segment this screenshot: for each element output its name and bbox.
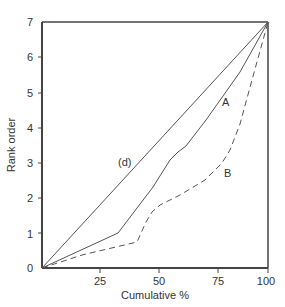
label-a: A	[222, 96, 230, 108]
y-axis-title: Rank order	[5, 117, 17, 172]
y-tick-labels: 7 6 5 4 3 2 1 0	[27, 16, 33, 274]
x-tick-25: 25	[94, 275, 106, 287]
label-d: (d)	[118, 156, 131, 168]
curves	[42, 22, 268, 268]
y-tick-7: 7	[27, 16, 33, 28]
x-tick-labels: 25 50 75 100	[94, 275, 275, 287]
x-axis-title: Cumulative %	[121, 289, 189, 301]
y-tick-3: 3	[27, 157, 33, 169]
y-tick-1: 1	[27, 228, 33, 240]
y-tick-6: 6	[27, 51, 33, 63]
y-tick-4: 4	[27, 122, 33, 134]
chart-canvas: 7 6 5 4 3 2 1 0 25 50 75 100 Cumulative …	[0, 0, 285, 307]
origin-tick-0: 0	[27, 262, 33, 274]
x-tick-100: 100	[257, 275, 275, 287]
x-tick-50: 50	[153, 275, 165, 287]
y-tick-5: 5	[27, 87, 33, 99]
lorenz-chart: 7 6 5 4 3 2 1 0 25 50 75 100 Cumulative …	[0, 0, 285, 307]
x-tick-75: 75	[212, 275, 224, 287]
curve-d-equality-line	[42, 22, 268, 268]
label-b: B	[224, 167, 231, 179]
y-tick-2: 2	[27, 192, 33, 204]
